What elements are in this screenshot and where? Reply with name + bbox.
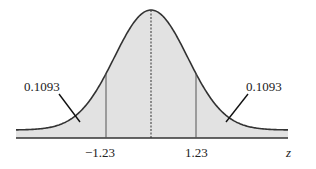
tail-label-right: 0.1093 [246, 80, 282, 93]
tick-label-neg: −1.23 [85, 146, 115, 159]
tick-label-pos: 1.23 [185, 146, 208, 159]
pointer-left [59, 94, 80, 122]
axis-label-z: z [286, 146, 291, 159]
curve-area-fill [16, 10, 288, 138]
pointer-right [226, 94, 248, 122]
tail-label-left: 0.1093 [24, 80, 60, 93]
